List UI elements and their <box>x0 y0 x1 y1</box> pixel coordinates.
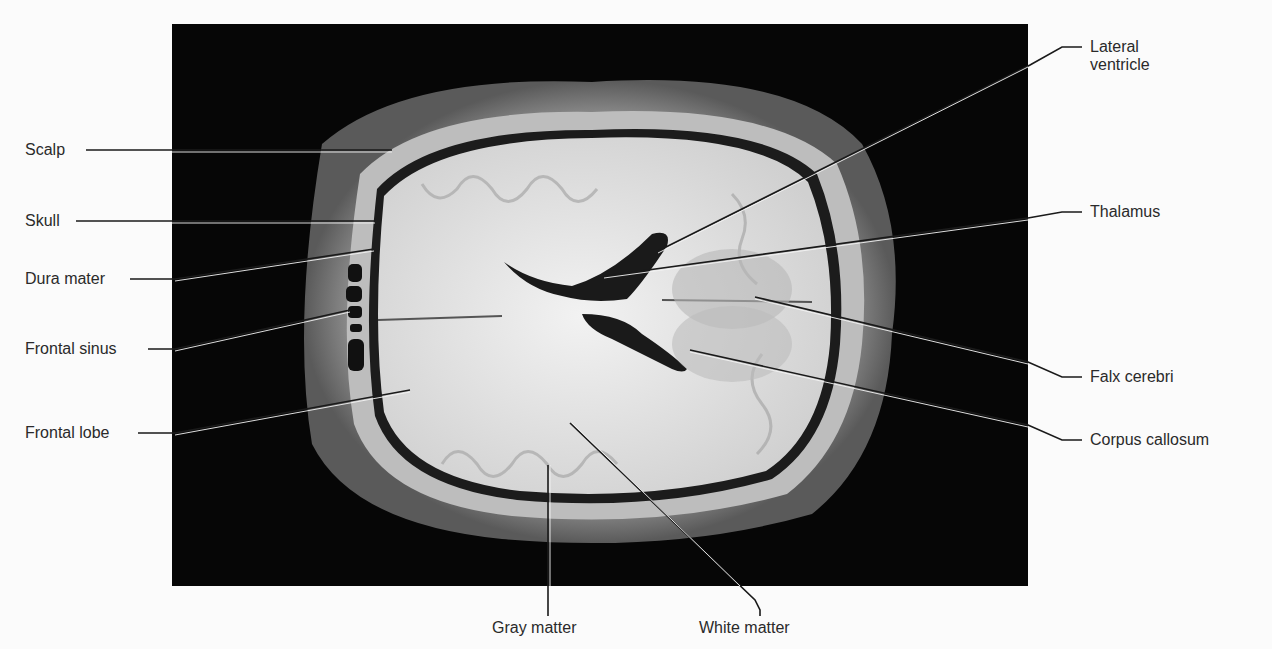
brain-section-photo <box>172 24 1028 586</box>
label-lateral-ventricle-line2: ventricle <box>1090 56 1150 74</box>
label-white-matter: White matter <box>699 619 790 637</box>
label-falx-cerebri: Falx cerebri <box>1090 368 1174 386</box>
label-scalp: Scalp <box>25 141 65 159</box>
label-lateral-ventricle-line1: Lateral <box>1090 38 1150 56</box>
label-skull: Skull <box>25 212 60 230</box>
label-lateral-ventricle: Lateral ventricle <box>1090 38 1150 74</box>
label-thalamus: Thalamus <box>1090 203 1160 221</box>
label-dura-mater: Dura mater <box>25 270 105 288</box>
brain-section-illustration <box>172 24 1028 586</box>
label-frontal-lobe: Frontal lobe <box>25 424 110 442</box>
label-corpus-callosum: Corpus callosum <box>1090 431 1209 449</box>
label-gray-matter: Gray matter <box>492 619 576 637</box>
label-frontal-sinus: Frontal sinus <box>25 340 117 358</box>
